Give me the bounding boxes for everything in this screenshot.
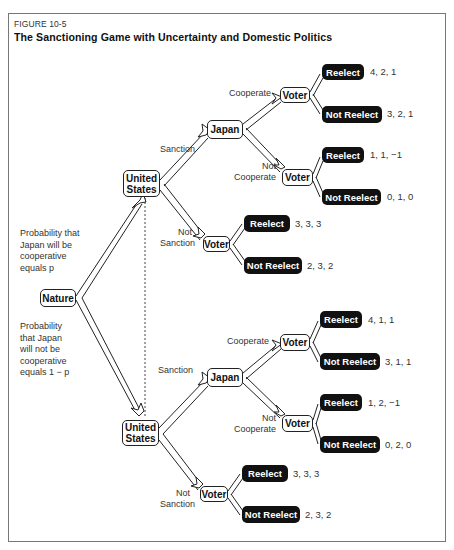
voter-node: Voter — [280, 87, 310, 103]
node-text: States — [125, 433, 155, 444]
cooperate-label-lower: Cooperate — [227, 336, 269, 347]
us-node-upper: United States — [123, 170, 160, 197]
not-reelect-terminal: Not Reelect — [322, 189, 381, 205]
not-cooperate-label-upper: Not Cooperate — [228, 161, 276, 183]
not-reelect-terminal: Not Reelect — [322, 106, 382, 123]
node-text: States — [126, 184, 156, 195]
node-text: United — [125, 422, 156, 433]
japan-node-upper: Japan — [207, 120, 243, 139]
not-reelect-terminal: Not Reelect — [320, 353, 380, 370]
not-reelect-terminal: Not Reelect — [244, 257, 302, 274]
sanction-label-lower: Sanction — [158, 365, 193, 376]
payoff: 2, 3, 2 — [307, 260, 333, 271]
payoff: 3, 3, 3 — [295, 218, 321, 229]
prob-line: Probability — [20, 321, 69, 333]
label-line: Sanction — [160, 499, 190, 510]
voter-node: Voter — [282, 169, 313, 186]
payoff: 3, 3, 3 — [293, 468, 319, 479]
edges — [76, 74, 323, 515]
prob-line: equals 1 − p — [20, 367, 69, 379]
prob-line: that Japan — [20, 333, 69, 345]
sanction-label-upper: Sanction — [160, 144, 195, 155]
reelect-terminal: Reelect — [320, 394, 362, 411]
payoff: 1, 1, −1 — [370, 149, 402, 160]
payoff: 4, 1, 1 — [368, 314, 394, 325]
prob-line: cooperative — [20, 251, 80, 263]
cooperate-label-upper: Cooperate — [229, 88, 271, 99]
payoff: 2, 3, 2 — [305, 509, 331, 520]
not-reelect-terminal: Not Reelect — [242, 506, 300, 523]
not-sanction-label-lower: Not Sanction — [160, 488, 190, 510]
reelect-terminal: Reelect — [242, 465, 288, 482]
payoff: 4, 2, 1 — [370, 66, 396, 77]
voter-node: Voter — [203, 236, 230, 252]
label-line: Not — [226, 413, 276, 424]
voter-node: Voter — [282, 415, 313, 432]
label-line: Cooperate — [226, 424, 276, 435]
not-cooperate-label-lower: Not Cooperate — [226, 413, 276, 435]
japan-node-lower: Japan — [207, 368, 243, 387]
prob-not-cooperative-label: Probability that Japan will not be coope… — [20, 321, 69, 379]
reelect-terminal: Reelect — [322, 64, 364, 80]
prob-line: cooperative — [20, 356, 69, 368]
prob-line: equals p — [20, 263, 80, 275]
prob-cooperative-label: Probability that Japan will be cooperati… — [20, 228, 80, 274]
nature-node: Nature — [40, 289, 76, 307]
node-text: United — [126, 173, 157, 184]
voter-node: Voter — [280, 334, 310, 351]
reelect-terminal: Reelect — [244, 215, 290, 232]
not-sanction-label-upper: Not Sanction — [160, 227, 192, 249]
label-line: Not — [160, 488, 190, 499]
label-line: Cooperate — [228, 172, 276, 183]
payoff: 0, 1, 0 — [387, 191, 413, 202]
prob-line: Probability that — [20, 228, 80, 240]
payoff: 1, 2, −1 — [368, 397, 400, 408]
prob-line: will not be — [20, 344, 69, 356]
label-line: Not — [228, 161, 276, 172]
payoff: 3, 2, 1 — [387, 108, 413, 119]
prob-line: Japan will be — [20, 240, 80, 252]
reelect-terminal: Reelect — [322, 147, 364, 163]
voter-node: Voter — [200, 486, 228, 502]
tree-edges — [0, 0, 454, 550]
payoff: 0, 2, 0 — [385, 439, 411, 450]
payoff: 3, 1, 1 — [385, 356, 411, 367]
not-reelect-terminal: Not Reelect — [320, 436, 380, 453]
label-line: Sanction — [160, 238, 192, 249]
label-line: Not — [160, 227, 192, 238]
us-node-lower: United States — [122, 420, 159, 446]
reelect-terminal: Reelect — [320, 311, 362, 328]
